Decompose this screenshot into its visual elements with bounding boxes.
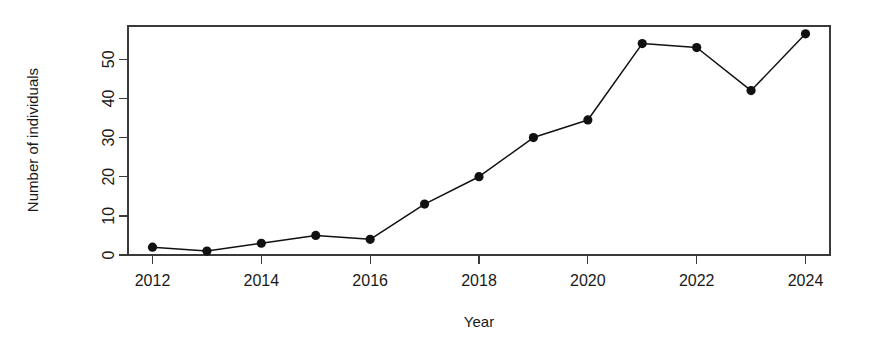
- data-point-2016: 2016: 4: [366, 235, 375, 244]
- y-axis-title: Number of individuals: [24, 68, 41, 212]
- x-tick-label-2024: 2024: [788, 272, 824, 289]
- data-point-2015: 2015: 5: [311, 231, 320, 240]
- x-tick-label-2018: 2018: [461, 272, 497, 289]
- data-point-2021: 2021: 54: [638, 39, 647, 48]
- y-tick-label-40: 40: [100, 89, 117, 107]
- line-chart: 2012201420162018202020222024 01020304050…: [0, 0, 878, 357]
- y-tick-label-30: 30: [100, 129, 117, 147]
- data-point-2012: 2012: 2: [148, 243, 157, 252]
- chart-figure: 2012201420162018202020222024 01020304050…: [0, 0, 878, 357]
- data-point-2019: 2019: 30: [529, 133, 538, 142]
- data-point-2024: 2024: 56.5: [801, 29, 810, 38]
- x-tick-label-2016: 2016: [352, 272, 388, 289]
- x-tick-label-2020: 2020: [570, 272, 606, 289]
- data-point-2014: 2014: 3: [257, 239, 266, 248]
- y-tick-label-0: 0: [100, 250, 117, 259]
- y-tick-label-50: 50: [100, 50, 117, 68]
- data-point-2022: 2022: 53: [692, 43, 701, 52]
- chart-background: [0, 0, 878, 357]
- data-point-2018: 2018: 20: [474, 172, 483, 181]
- y-tick-label-10: 10: [100, 207, 117, 225]
- data-point-2013: 2013: 1: [202, 246, 211, 255]
- data-point-2023: 2023: 42: [746, 86, 755, 95]
- data-point-2017: 2017: 13: [420, 200, 429, 209]
- data-point-2020: 2020: 34.5: [583, 115, 592, 124]
- x-axis-title: Year: [464, 313, 494, 330]
- x-tick-label-2012: 2012: [135, 272, 171, 289]
- x-tick-label-2014: 2014: [244, 272, 280, 289]
- y-tick-label-20: 20: [100, 168, 117, 186]
- x-tick-label-2022: 2022: [679, 272, 715, 289]
